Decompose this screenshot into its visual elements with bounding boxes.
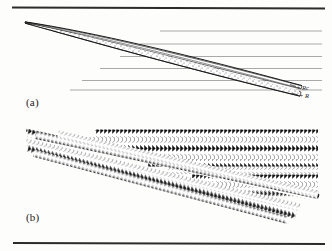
panel-a-label: (a) [26,96,39,108]
panel-a-wedge [25,22,302,96]
scientific-figure: (a) (b) + Rc + R [0,0,332,251]
panel-b-pattern [25,129,319,224]
annotation-r-label: + R [299,92,309,99]
top-rule [12,8,325,9]
bottom-rule [13,243,325,244]
panel-b-label: (b) [26,211,39,223]
annotation-rc-label: + Rc [296,84,309,91]
figure-canvas [0,0,332,251]
